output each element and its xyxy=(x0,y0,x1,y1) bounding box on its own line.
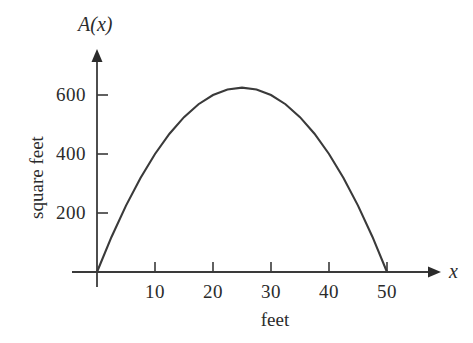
x-tick-label-50: 50 xyxy=(367,282,407,301)
y-axis-arrowhead xyxy=(92,49,103,62)
x-axis-title: feet xyxy=(215,310,335,329)
x-axis-arrowhead xyxy=(428,267,441,278)
x-tick-label-30: 30 xyxy=(251,282,291,301)
x-tick-label-10: 10 xyxy=(135,282,175,301)
y-tick-marks xyxy=(97,95,108,213)
x-tick-label-40: 40 xyxy=(309,282,349,301)
y-tick-label-600: 600 xyxy=(38,85,86,104)
y-axis-title: square feet xyxy=(27,118,46,238)
y-axis-symbol-label: A(x) xyxy=(78,14,112,34)
x-axis-symbol-label: x xyxy=(449,261,458,281)
x-tick-marks xyxy=(155,262,387,272)
chart-figure: A(x) x 600 400 200 10 20 30 40 50 square… xyxy=(0,0,473,343)
area-function-curve xyxy=(97,88,387,272)
x-tick-label-20: 20 xyxy=(193,282,233,301)
y-axis xyxy=(92,49,103,287)
